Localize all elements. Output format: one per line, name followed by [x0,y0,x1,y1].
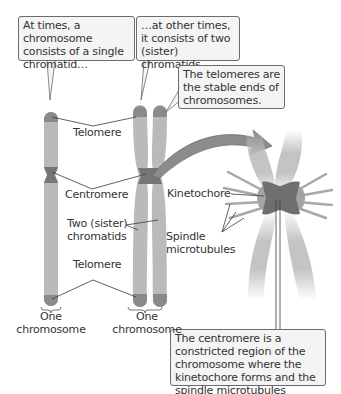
label-spindle-1: Spindle [166,230,205,243]
callout-two-chromatids: …at other times, it consists of two (sis… [136,16,240,61]
two-chromatid-chromosome [133,105,167,307]
label-spindle-2: microtubules [166,243,235,256]
telomere-bottom-left [44,295,58,306]
label-one-chromosome-left-2: chromosome [16,323,86,336]
label-one-chromosome-right-1: One [132,310,162,323]
callout-telomeres: The telomeres are the stable ends of chr… [178,65,285,109]
single-chromatid-chromosome [44,112,58,306]
kinetochore-region [262,182,300,215]
telomere-top-left [44,112,58,122]
centromere-left [44,167,58,183]
callout-single-chromatid: At times, a chromosome consists of a sin… [18,16,135,61]
label-telomere-bottom: Telomere [73,258,121,271]
label-one-chromosome-right-2: chromosome [112,323,182,336]
label-telomere-top: Telomere [73,126,121,139]
label-one-chromosome-left-1: One [36,310,66,323]
label-sister-chromatids-1: Two (sister) [67,217,127,230]
label-sister-chromatids-2: chromatids [67,230,127,243]
label-centromere: Centromere [65,188,128,201]
callout-centromere: The centromere is a constricted region o… [170,329,326,386]
enlarged-centromere [224,130,332,300]
label-kinetochore: Kinetochore [167,187,231,200]
